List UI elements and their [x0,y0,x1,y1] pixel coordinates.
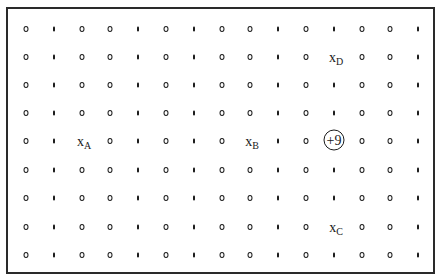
bar-dot-icon [193,55,195,60]
ring-dot-icon [388,252,393,258]
ring-dot-icon [108,195,113,201]
ring-dot-icon [304,167,309,173]
ring-dot-icon [388,138,393,144]
bar-dot-icon [277,139,279,144]
ring-dot-icon [360,138,365,144]
ring-dot-icon [24,54,29,60]
point-label-b: xB [245,135,259,151]
bar-dot-icon [53,111,55,116]
ring-dot-icon [304,54,309,60]
ring-dot-icon [80,54,85,60]
ring-dot-icon [164,252,169,258]
ring-dot-icon [108,82,113,88]
bar-dot-icon [193,111,195,116]
ring-dot-icon [388,26,393,32]
ring-dot-icon [248,252,253,258]
bar-dot-icon [417,196,419,201]
ring-dot-icon [360,110,365,116]
bar-dot-icon [333,27,335,32]
bar-dot-icon [277,111,279,116]
ring-dot-icon [304,138,309,144]
ring-dot-icon [220,252,225,258]
point-label-d: xD [329,51,343,67]
ring-dot-icon [24,224,29,230]
bar-dot-icon [137,196,139,201]
ring-dot-icon [248,195,253,201]
ring-dot-icon [360,195,365,201]
bar-dot-icon [333,83,335,88]
bar-dot-icon [137,168,139,173]
ring-dot-icon [388,167,393,173]
ring-dot-icon [248,110,253,116]
ring-dot-icon [220,195,225,201]
bar-dot-icon [53,139,55,144]
bar-dot-icon [277,196,279,201]
bar-dot-icon [417,168,419,173]
ring-dot-icon [108,138,113,144]
ring-dot-icon [220,26,225,32]
ring-dot-icon [24,110,29,116]
bar-dot-icon [193,168,195,173]
ring-dot-icon [388,110,393,116]
bar-dot-icon [333,253,335,258]
ring-dot-icon [24,195,29,201]
ring-dot-icon [304,110,309,116]
ring-dot-icon [248,82,253,88]
ring-dot-icon [220,138,225,144]
ring-dot-icon [164,195,169,201]
bar-dot-icon [193,196,195,201]
ring-dot-icon [164,138,169,144]
ring-dot-icon [360,26,365,32]
ring-dot-icon [220,110,225,116]
ring-dot-icon [304,82,309,88]
bar-dot-icon [193,225,195,230]
ring-dot-icon [248,54,253,60]
ring-dot-icon [108,252,113,258]
ring-dot-icon [220,224,225,230]
bar-dot-icon [137,253,139,258]
bar-dot-icon [333,111,335,116]
ring-dot-icon [388,224,393,230]
ring-dot-icon [304,195,309,201]
ring-dot-icon [24,138,29,144]
ring-dot-icon [360,252,365,258]
ring-dot-icon [80,252,85,258]
ring-dot-icon [80,195,85,201]
ring-dot-icon [248,167,253,173]
bar-dot-icon [53,225,55,230]
bar-dot-icon [137,139,139,144]
ring-dot-icon [220,82,225,88]
ring-dot-icon [24,252,29,258]
bar-dot-icon [193,27,195,32]
ring-dot-icon [164,82,169,88]
bar-dot-icon [53,253,55,258]
ring-dot-icon [80,26,85,32]
ring-dot-icon [248,224,253,230]
bar-dot-icon [277,55,279,60]
ring-dot-icon [360,54,365,60]
ring-dot-icon [80,167,85,173]
bar-dot-icon [277,168,279,173]
ring-dot-icon [108,167,113,173]
ring-dot-icon [108,54,113,60]
bar-dot-icon [53,55,55,60]
bar-dot-icon [137,83,139,88]
ring-dot-icon [164,224,169,230]
bar-dot-icon [53,83,55,88]
bar-dot-icon [417,253,419,258]
bar-dot-icon [137,111,139,116]
ring-dot-icon [164,110,169,116]
ring-dot-icon [24,82,29,88]
ring-dot-icon [360,224,365,230]
ring-dot-icon [108,224,113,230]
ring-dot-icon [164,54,169,60]
ring-dot-icon [164,167,169,173]
bar-dot-icon [417,55,419,60]
ring-dot-icon [304,224,309,230]
bar-dot-icon [193,139,195,144]
bar-dot-icon [417,111,419,116]
charge-value: +9 [327,133,342,147]
bar-dot-icon [277,253,279,258]
ring-dot-icon [24,26,29,32]
bar-dot-icon [333,168,335,173]
